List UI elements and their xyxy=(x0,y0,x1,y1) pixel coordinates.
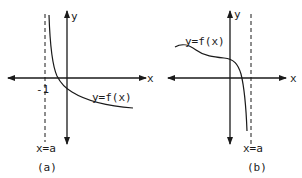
asymptote-label: x=a xyxy=(243,142,263,155)
function-curve xyxy=(175,45,247,131)
curve-label: y=f(x) xyxy=(185,35,225,48)
asymptote-label: x=a xyxy=(36,142,56,155)
panel-b: y x y=f(x) x=a (b) xyxy=(168,8,297,174)
x-axis-label: x xyxy=(147,72,154,85)
x-axis-label: x xyxy=(290,72,297,85)
y-axis-label: y xyxy=(71,10,78,23)
panel-a: y x -1 y=f(x) x=a (a) xyxy=(8,10,154,174)
curve-label: y=f(x) xyxy=(92,91,132,104)
panel-caption: (b) xyxy=(247,161,267,174)
figure-canvas: y x -1 y=f(x) x=a (a) y x y=f(x) x=a (b) xyxy=(0,0,302,178)
tick-label: -1 xyxy=(36,83,49,96)
panel-caption: (a) xyxy=(37,161,57,174)
y-axis-label: y xyxy=(234,8,241,21)
